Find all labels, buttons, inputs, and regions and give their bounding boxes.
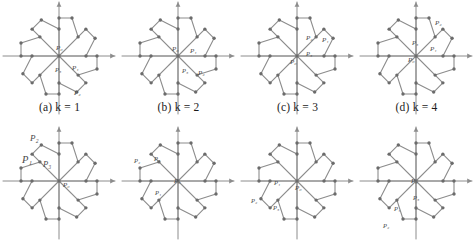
point-label-b-0: P₀ [171,45,179,53]
point-label-b-3: P₂ [197,69,205,77]
point-label-g-1: P₀ [294,184,302,192]
nodes [138,16,217,95]
panel-caption-text-a: (a) k = 1 [39,101,80,113]
panel-d: P₂P₃P₁P₀(d) k = 4 [357,0,476,125]
point-label-g-0: P₁ [273,179,280,186]
panel-g: P₁P₀P₂P₃(g) k = 7 [238,125,357,249]
star-graph-h: P₀P₃P₁P₂ [357,125,476,249]
point-label-c-1: P₁ [321,36,329,44]
point-labels: P₀P₁P₃P₂ [54,44,81,97]
panel-caption-c: (c) k = 3 [238,101,357,113]
point-label-h-1: P₃ [412,194,419,201]
point-label-h-0: P₀ [410,177,418,185]
point-labels: P₁P₀P₂P₃ [250,179,302,211]
point-label-a-0: P₀ [55,44,63,52]
point-label-e-1: P₁ [21,154,32,165]
point-label-f-2: P₀ [173,177,181,185]
point-label-a-3: P₂ [73,89,81,97]
nodes [376,16,455,95]
nodes [257,16,336,95]
point-label-g-3: P₃ [272,204,279,211]
point-label-d-0: P₂ [434,19,442,27]
point-label-h-3: P₂ [382,222,390,229]
panel-caption-d: (d) k = 4 [357,101,476,113]
point-labels: P₂P₁P₃P₀ [289,34,329,66]
point-label-d-1: P₃ [411,39,418,46]
panel-f: P₂P₃P₀P₁(f) k = 6 [119,125,238,249]
point-label-b-1: P₁ [189,47,197,55]
point-label-f-1: P₃ [153,155,160,162]
point-label-f-0: P₂ [133,157,141,164]
panel-caption-a: (a) k = 1 [0,101,119,113]
point-label-d-3: P₀ [407,56,415,64]
point-label-c-2: P₃ [305,50,312,57]
panel-a: P₀P₁P₃P₂(a) k = 1 [0,0,119,125]
point-label-c-0: P₂ [305,34,313,42]
star-graph-g: P₁P₀P₂P₃ [238,125,357,249]
star-graph-e: P₂P₁P₃P₀ [0,125,119,249]
panel-h: P₀P₃P₁P₂(h) k = 8 [357,125,476,249]
star-graph-f: P₂P₃P₀P₁ [119,125,238,249]
panel-e: P₂P₁P₃P₀(e) k = 5 [0,125,119,249]
point-labels: P₀P₁P₃P₂ [171,45,205,77]
panel-caption-b: (b) k = 2 [119,101,238,113]
point-label-e-2: P₃ [42,159,51,169]
point-label-a-2: P₃ [54,66,61,73]
point-label-g-2: P₂ [250,197,258,204]
point-label-e-3: P₀ [62,181,70,189]
point-label-e-0: P₂ [29,133,39,143]
point-label-h-2: P₁ [393,205,400,212]
point-label-b-2: P₃ [181,67,188,74]
nodes [19,16,98,95]
panel-caption-text-c: (c) k = 3 [277,101,318,113]
panel-c: P₂P₁P₃P₀(c) k = 3 [238,0,357,125]
point-label-d-2: P₁ [429,45,437,53]
panel-b: P₀P₁P₃P₂(b) k = 2 [119,0,238,125]
panel-caption-text-d: (d) k = 4 [396,101,438,113]
panel-caption-text-b: (b) k = 2 [158,101,200,113]
point-labels: P₂P₃P₁P₀ [407,19,442,64]
nodes [257,141,336,220]
figure-grid: P₀P₁P₃P₂(a) k = 1P₀P₁P₃P₂(b) k = 2P₂P₁P₃… [0,0,476,249]
point-label-a-1: P₁ [71,64,79,72]
point-label-f-3: P₁ [154,189,161,196]
point-label-c-3: P₀ [289,58,297,66]
